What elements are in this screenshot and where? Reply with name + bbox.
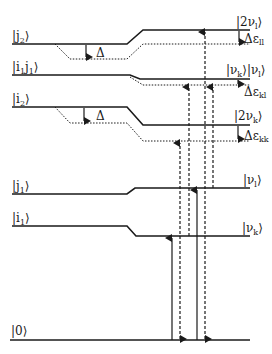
- label-2nu-l: |2νl⟩: [236, 15, 262, 31]
- energy-level-diagram: |j2⟩ |i1j1⟩ |i2⟩ |j1⟩ |i1⟩ |0⟩ Δ Δ |2νl⟩…: [0, 0, 272, 354]
- label-i2: |i2⟩: [12, 92, 30, 108]
- label-j2: |j2⟩: [12, 29, 30, 45]
- label-nu-k: |νk⟩: [242, 221, 263, 237]
- level-j2-shifted-line: [55, 44, 250, 59]
- label-ground: |0⟩: [11, 324, 27, 338]
- label-i1j1: |i1j1⟩: [12, 60, 39, 76]
- level-j1-line: [12, 188, 250, 194]
- label-j1: |j1⟩: [12, 179, 30, 195]
- level-i1j1-line: [12, 75, 250, 79]
- level-i1-line: [12, 226, 250, 236]
- label-delta-j2: Δ: [96, 46, 105, 60]
- label-nu-k-nu-l: |νk⟩|νl⟩: [226, 63, 265, 79]
- label-nu-l: |νl⟩: [243, 173, 262, 189]
- level-j2-line: [12, 30, 250, 44]
- label-i1: |i1⟩: [12, 211, 30, 227]
- label-eps-ll: Δεll: [244, 32, 264, 47]
- label-2nu-k: |2νk⟩: [234, 109, 263, 125]
- label-delta-i2: Δ: [96, 109, 105, 123]
- level-i2-line: [12, 107, 250, 125]
- label-eps-kl: Δεkl: [244, 85, 267, 100]
- label-eps-kk: Δεkk: [244, 129, 269, 144]
